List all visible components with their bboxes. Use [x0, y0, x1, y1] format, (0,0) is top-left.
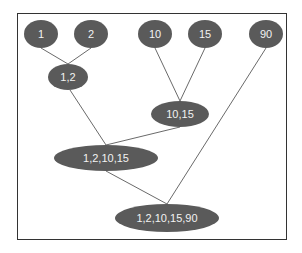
edge-n2-n1_2 — [68, 48, 91, 64]
node-n1_2_10_15_90: 1,2,10,15,90 — [115, 204, 219, 232]
node-label: 2 — [88, 28, 94, 40]
edge-n1-n1_2 — [41, 48, 68, 64]
node-label: 10 — [149, 28, 161, 40]
nodes: 121015901,210,151,2,10,151,2,10,15,90 — [24, 20, 283, 232]
edge-n1_2_10_15-n1_2_10_15_90 — [106, 171, 167, 204]
node-n15: 15 — [188, 20, 222, 48]
node-label: 1,2 — [60, 71, 75, 83]
node-n1: 1 — [24, 20, 58, 48]
node-label: 90 — [260, 28, 272, 40]
edge-n15-n10_15 — [180, 48, 205, 101]
node-label: 1,2,10,15,90 — [136, 212, 197, 224]
node-label: 15 — [199, 28, 211, 40]
node-n1_2: 1,2 — [48, 64, 88, 90]
edge-n10-n10_15 — [155, 48, 180, 101]
node-n10_15: 10,15 — [151, 101, 209, 127]
cluster-tree-diagram: 121015901,210,151,2,10,151,2,10,15,90 — [0, 0, 302, 253]
edge-n10_15-n1_2_10_15 — [106, 127, 180, 145]
node-n90: 90 — [249, 20, 283, 48]
node-n1_2_10_15: 1,2,10,15 — [54, 145, 158, 171]
node-n2: 2 — [74, 20, 108, 48]
node-label: 1 — [38, 28, 44, 40]
edge-n1_2-n1_2_10_15 — [70, 90, 106, 145]
node-n10: 10 — [138, 20, 172, 48]
node-label: 1,2,10,15 — [83, 152, 129, 164]
node-label: 10,15 — [166, 108, 194, 120]
